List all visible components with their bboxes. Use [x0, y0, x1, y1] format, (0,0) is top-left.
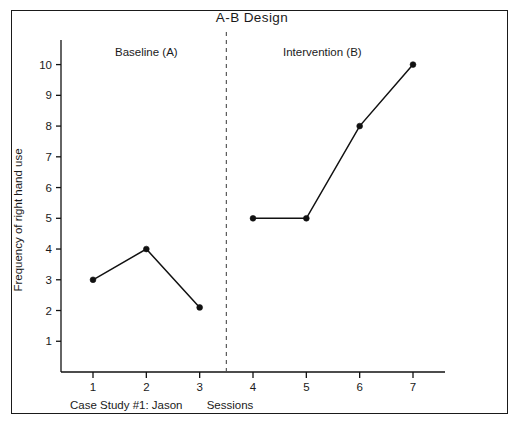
figure-container: A-B Design Baseline (A)Intervention (B) …	[0, 0, 523, 427]
x-tick-label: 4	[250, 381, 257, 393]
chart-title: A-B Design	[216, 10, 288, 25]
series-line-intervention-b	[253, 65, 413, 219]
data-point	[303, 215, 309, 221]
x-axis-title: Sessions	[207, 399, 254, 411]
y-tick-label: 3	[46, 274, 52, 286]
data-series-group	[90, 62, 416, 311]
data-point	[197, 305, 203, 311]
x-tick-label: 2	[143, 381, 149, 393]
series-line-baseline-a	[93, 249, 200, 307]
y-tick-group: 12345678910	[39, 59, 61, 348]
data-point	[143, 246, 149, 252]
y-tick-label: 5	[46, 212, 52, 224]
x-tick-label: 5	[303, 381, 309, 393]
x-tick-label: 6	[356, 381, 362, 393]
y-tick-label: 8	[46, 120, 52, 132]
figure-caption: Case Study #1: Jason	[70, 399, 183, 411]
data-point	[357, 123, 363, 129]
x-tick-label: 7	[410, 381, 416, 393]
y-axis-title: Frequency of right hand use	[12, 148, 24, 291]
data-point	[410, 62, 416, 68]
data-point	[90, 277, 96, 283]
phase-label: Baseline (A)	[115, 46, 178, 58]
phase-label: Intervention (B)	[283, 46, 362, 58]
chart-svg: A-B Design Baseline (A)Intervention (B) …	[0, 0, 523, 427]
x-tick-group: 1234567	[90, 372, 416, 393]
y-tick-label: 4	[46, 243, 53, 255]
x-tick-label: 3	[196, 381, 202, 393]
y-tick-label: 1	[46, 335, 52, 347]
y-tick-label: 9	[46, 89, 52, 101]
y-tick-label: 2	[46, 305, 52, 317]
y-tick-label: 10	[39, 59, 52, 71]
y-tick-label: 7	[46, 151, 52, 163]
phase-label-group: Baseline (A)Intervention (B)	[115, 46, 362, 58]
x-tick-label: 1	[90, 381, 96, 393]
data-point	[250, 215, 256, 221]
y-tick-label: 6	[46, 182, 52, 194]
